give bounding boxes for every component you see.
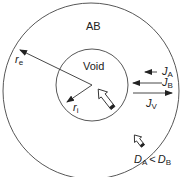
void-growth-arrow-icon: [94, 86, 117, 112]
flux-v-label: JV: [145, 97, 158, 111]
radius-inner-arrow: [67, 85, 92, 102]
radius-inner-label: ri: [73, 101, 79, 115]
radius-outer-label: re: [15, 53, 24, 67]
shell-arrow-icon: [131, 132, 147, 149]
region-void-label: Void: [83, 60, 104, 72]
region-ab-label: AB: [86, 20, 101, 32]
void-formation-diagram: AB Void re ri JA JB JV DA<DB: [0, 0, 184, 177]
diffusivity-condition-label: DA<DB: [134, 153, 171, 167]
